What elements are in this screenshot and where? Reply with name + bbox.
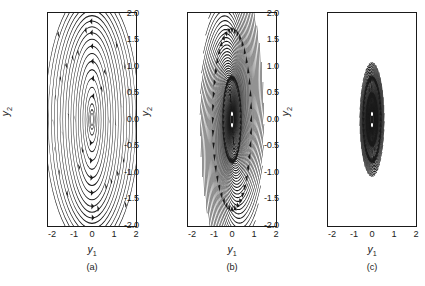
panel-b-x-axis-label: y1 <box>187 243 277 258</box>
panel-c-ytick-3: 0.5 <box>239 88 279 97</box>
panel-c-ytick-4: 0.0 <box>239 115 279 124</box>
panel-c-y-axis-label: y2 <box>279 107 294 116</box>
panel-a-xtick-3: 1 <box>103 230 125 239</box>
panel-b-ytick-5: -0.5 <box>99 141 139 150</box>
panel-c-streamlines <box>328 13 416 226</box>
panel-c-ytick-8: -2.0 <box>239 221 279 230</box>
panel-a-caption: (a) <box>47 262 137 272</box>
phase-portrait-figure: y2 2.0 1.5 1.0 0.5 0.0 -0.5 -1.0 -1.5 -2… <box>0 0 425 286</box>
panel-b-xtick-3: 1 <box>243 230 265 239</box>
panel-c-equilibrium-point <box>370 116 373 124</box>
panel-b-xtick-2: 0 <box>221 230 243 239</box>
panel-c-plot-area <box>327 12 417 227</box>
panel-c-ytick-6: -1.0 <box>239 168 279 177</box>
panel-a-x-axis-label: y1 <box>47 243 137 258</box>
panel-b-ytick-0: 2.0 <box>99 9 139 18</box>
panel-c: y2 2.0 1.5 1.0 0.5 0.0 -0.5 -1.0 -1.5 -2… <box>280 0 422 286</box>
panel-b-y-axis-label: y2 <box>139 107 154 116</box>
panel-b-caption: (b) <box>187 262 277 272</box>
panel-b-ytick-2: 1.0 <box>99 62 139 71</box>
panel-c-ytick-0: 2.0 <box>239 9 279 18</box>
panel-b-equilibrium-point <box>230 116 233 124</box>
panel-c-ytick-7: -1.5 <box>239 194 279 203</box>
panel-b-ytick-6: -1.0 <box>99 168 139 177</box>
panel-b-xtick-0: -2 <box>181 230 203 239</box>
panel-c-caption: (c) <box>327 262 417 272</box>
panel-c-x-axis-label: y1 <box>327 243 417 258</box>
panel-a-xtick-0: -2 <box>41 230 63 239</box>
panel-c-ytick-1: 1.5 <box>239 35 279 44</box>
panel-c-xtick-4: 2 <box>405 230 425 239</box>
panel-c-xtick-2: 0 <box>361 230 383 239</box>
panel-c-ytick-2: 1.0 <box>239 62 279 71</box>
panel-c-xtick-0: -2 <box>321 230 343 239</box>
panel-b-ytick-8: -2.0 <box>99 221 139 230</box>
panel-a-y-axis-label: y2 <box>0 107 14 116</box>
panel-b-ytick-1: 1.5 <box>99 35 139 44</box>
panel-b-ytick-7: -1.5 <box>99 194 139 203</box>
panel-c-xtick-3: 1 <box>383 230 405 239</box>
panel-c-ytick-5: -0.5 <box>239 141 279 150</box>
panel-b-ytick-4: 0.0 <box>99 115 139 124</box>
panel-a-xtick-2: 0 <box>81 230 103 239</box>
panel-b-ytick-3: 0.5 <box>99 88 139 97</box>
